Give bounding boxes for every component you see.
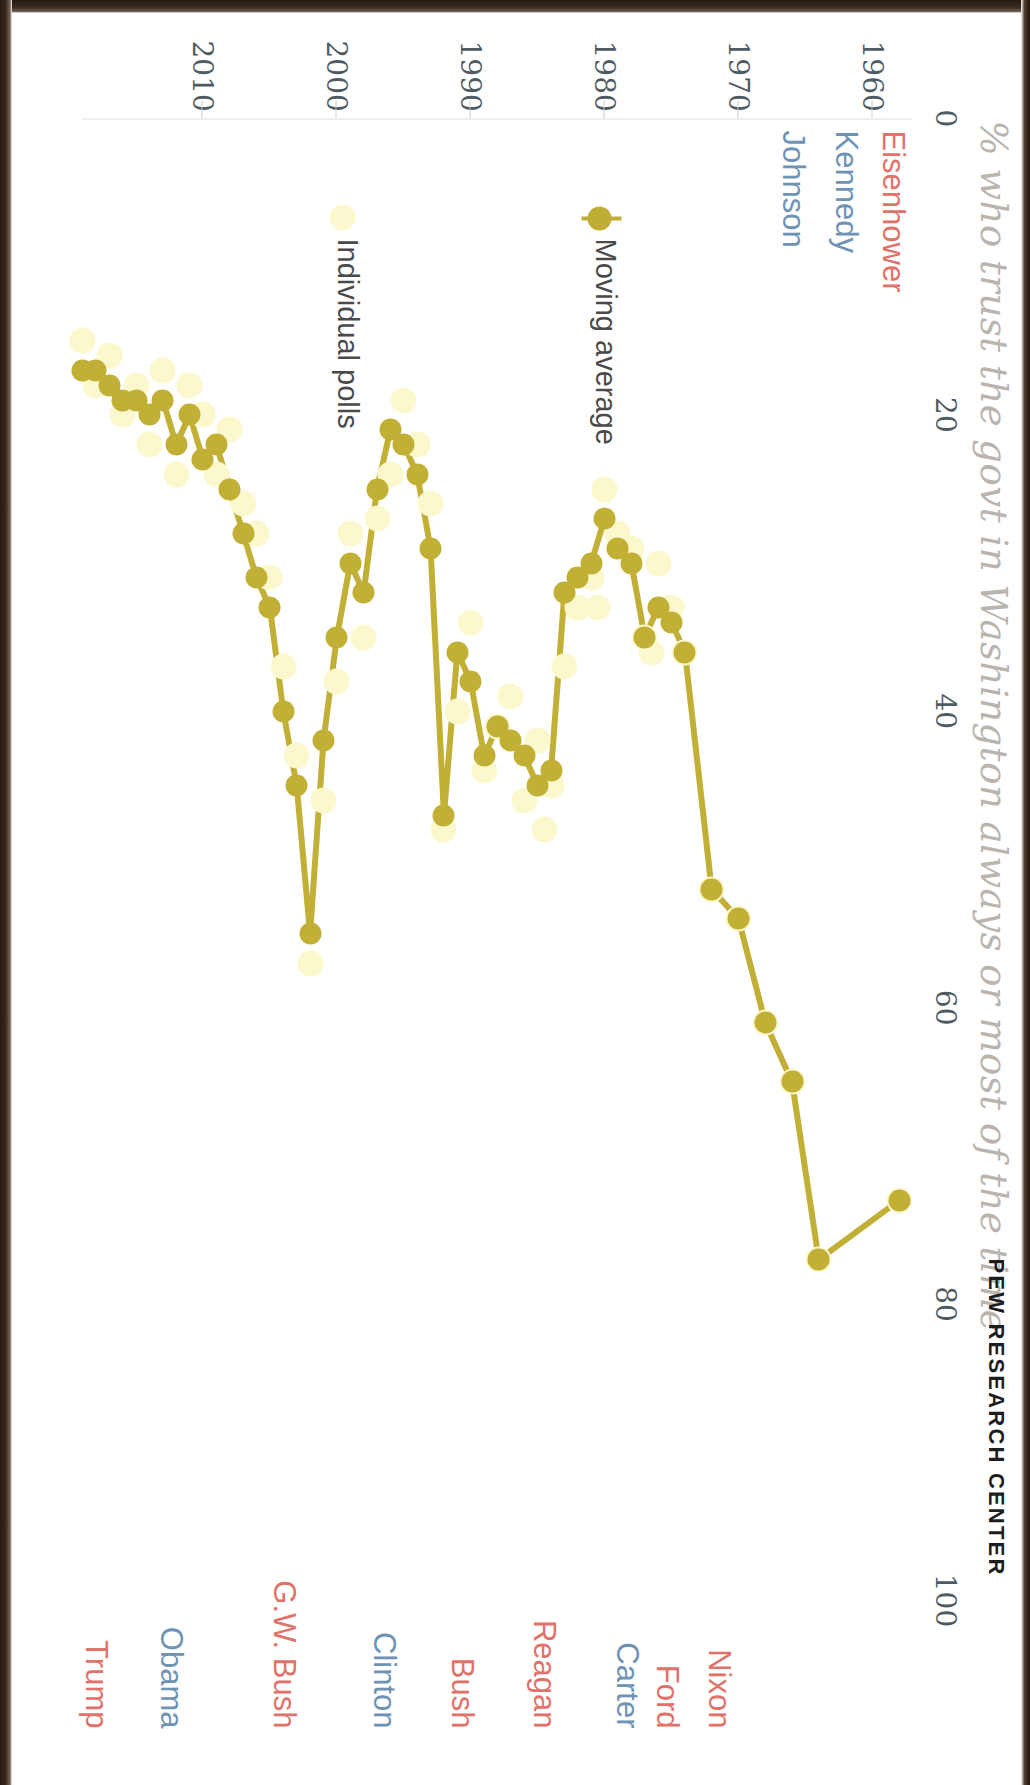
moving-average-point — [191, 448, 213, 470]
individual-poll-point — [337, 520, 363, 546]
moving-average-point — [673, 641, 695, 663]
moving-average-point — [781, 1070, 803, 1092]
value-axis-tick-40: 40 — [928, 693, 961, 729]
moving-average-point — [419, 537, 441, 559]
moving-average-point — [406, 463, 428, 485]
president-label-reagan: Reagan — [525, 1619, 561, 1728]
individual-poll-point — [323, 668, 349, 694]
value-axis-tick-0: 0 — [928, 109, 961, 127]
moving-average-point — [459, 670, 481, 692]
scanned-page: % who trust the govt in Washington alway… — [0, 0, 1030, 1785]
moving-average-point — [245, 566, 267, 588]
moving-average-point — [486, 715, 508, 737]
value-axis-tick-80: 80 — [928, 1286, 961, 1322]
moving-average-point — [446, 641, 468, 663]
chart-figure: % who trust the govt in Washington alway… — [0, 0, 1030, 1785]
year-axis-tickmark — [737, 100, 738, 118]
moving-average-point — [339, 552, 361, 574]
individual-poll-point — [444, 698, 470, 724]
president-label-carter: Carter — [608, 1642, 644, 1728]
moving-average-point — [312, 729, 334, 751]
year-axis-tickmark — [871, 100, 872, 118]
moving-average-point — [606, 537, 628, 559]
president-label-g-w-bush: G.W. Bush — [265, 1580, 301, 1728]
chart-headline: % who trust the govt in Washington alway… — [971, 120, 1014, 1332]
moving-average-point — [700, 878, 722, 900]
president-label-johnson: Johnson — [774, 130, 810, 247]
president-label-clinton: Clinton — [365, 1632, 401, 1729]
moving-average-point — [727, 907, 749, 929]
president-label-nixon: Nixon — [700, 1649, 736, 1728]
plot-area: 020406080100196019701980199020002010Eise… — [82, 118, 912, 1600]
moving-average-point — [754, 1011, 776, 1033]
moving-average-point — [258, 596, 280, 618]
moving-average-point — [325, 626, 347, 648]
moving-average-point — [272, 700, 294, 722]
moving-average-point — [285, 774, 307, 796]
individual-poll-point — [350, 624, 376, 650]
individual-poll-point — [69, 327, 95, 353]
individual-poll-point — [270, 653, 296, 679]
president-label-obama: Obama — [152, 1626, 188, 1728]
moving-average-line — [82, 118, 912, 1600]
value-axis-tick-60: 60 — [928, 989, 961, 1025]
moving-average-point — [178, 403, 200, 425]
individual-poll-point — [457, 609, 483, 635]
moving-average-point — [888, 1189, 910, 1211]
moving-average-point — [71, 359, 93, 381]
individual-polls-swatch-icon — [329, 204, 355, 230]
legend-label-moving-average: Moving average — [588, 238, 621, 444]
individual-poll-point — [176, 372, 202, 398]
individual-poll-point — [297, 950, 323, 976]
year-axis-tickmark — [603, 100, 604, 118]
individual-poll-point — [149, 357, 175, 383]
moving-average-point — [526, 774, 548, 796]
year-axis-tickmark — [201, 100, 202, 118]
year-axis-tickmark — [469, 100, 470, 118]
individual-poll-point — [364, 505, 390, 531]
value-axis-tick-20: 20 — [928, 397, 961, 433]
president-label-kennedy: Kennedy — [827, 130, 863, 252]
moving-average-point — [473, 744, 495, 766]
individual-poll-point — [310, 787, 336, 813]
moving-average-point — [165, 433, 187, 455]
president-label-bush: Bush — [443, 1657, 479, 1728]
moving-average-point — [633, 626, 655, 648]
moving-average-point — [379, 418, 401, 440]
moving-average-point — [593, 507, 615, 529]
moving-average-swatch-icon — [587, 204, 615, 232]
moving-average-point — [647, 596, 669, 618]
moving-average-point — [553, 581, 575, 603]
president-label-trump: Trump — [77, 1640, 113, 1728]
value-axis-tick-100: 100 — [928, 1573, 961, 1626]
individual-poll-point — [497, 683, 523, 709]
moving-average-point — [807, 1248, 829, 1270]
individual-poll-point — [163, 461, 189, 487]
individual-poll-point — [283, 742, 309, 768]
moving-average-point — [218, 478, 240, 500]
moving-average-point — [352, 581, 374, 603]
moving-average-point — [432, 804, 454, 826]
moving-average-point — [232, 522, 254, 544]
pew-research-center-brand: PEW RESEARCH CENTER — [982, 1258, 1008, 1576]
individual-poll-point — [551, 653, 577, 679]
moving-average-point — [299, 922, 321, 944]
individual-poll-point — [136, 431, 162, 457]
individual-poll-point — [645, 550, 671, 576]
president-label-eisenhower: Eisenhower — [874, 130, 910, 292]
year-axis-tickmark — [335, 100, 336, 118]
moving-average-point — [366, 478, 388, 500]
president-label-ford: Ford — [648, 1664, 684, 1728]
individual-poll-point — [390, 387, 416, 413]
individual-poll-point — [417, 490, 443, 516]
legend-label-individual-polls: Individual polls — [330, 238, 363, 428]
individual-poll-point — [531, 816, 557, 842]
individual-poll-point — [591, 476, 617, 502]
